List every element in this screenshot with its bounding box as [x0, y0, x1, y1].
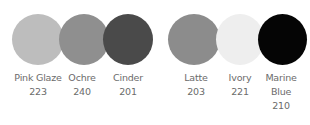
swatch-label-cinder: Cinder 201	[103, 71, 153, 99]
swatch-code: 240	[59, 85, 105, 99]
swatch-code: 201	[103, 85, 153, 99]
swatch-name: Ochre	[59, 71, 105, 85]
swatch-label-pink-glaze: Pink Glaze 223	[10, 71, 66, 99]
swatch-cinder[interactable]	[103, 14, 153, 65]
swatch-name: Latte	[173, 71, 219, 85]
swatch-code: 203	[173, 85, 219, 99]
swatch-label-ochre: Ochre 240	[59, 71, 105, 99]
swatch-code: 223	[10, 85, 66, 99]
swatch-name-line2: Blue	[256, 85, 306, 99]
swatch-name: Pink Glaze	[10, 71, 66, 85]
swatch-marine-blue[interactable]	[258, 14, 307, 65]
swatch-latte[interactable]	[168, 14, 220, 65]
swatch-ochre[interactable]	[59, 14, 109, 65]
swatch-code: 210	[256, 99, 306, 113]
swatch-name: Cinder	[103, 71, 153, 85]
swatch-label-latte: Latte 203	[173, 71, 219, 99]
swatch-pink-glaze[interactable]	[12, 14, 64, 65]
swatch-name-line1: Marine	[256, 71, 306, 85]
swatch-ivory[interactable]	[216, 14, 264, 65]
swatch-label-marine-blue: Marine Blue 210	[256, 71, 306, 113]
